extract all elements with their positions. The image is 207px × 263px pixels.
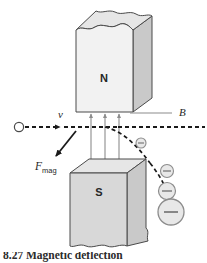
south-pole-front-face: [70, 173, 127, 247]
south-pole-block: S: [70, 159, 148, 247]
velocity-label: v: [58, 108, 63, 120]
force-label-subscript: mag: [42, 166, 57, 175]
south-pole-side-face: [127, 159, 148, 246]
magnetic-force-vector: [56, 131, 76, 156]
field-label-B: B: [179, 106, 186, 118]
north-pole-side-face: [133, 16, 152, 112]
incoming-charge: [14, 122, 23, 131]
north-pole-block: N: [76, 11, 152, 112]
magnetic-field-lines: [91, 113, 172, 160]
figure-caption-strip: 8.27 Magnetic deflection: [0, 252, 207, 263]
charge-symbol-3: [159, 183, 176, 200]
charge-symbol-4: [158, 199, 184, 225]
magnetic-deflection-figure: N B S v: [0, 0, 207, 263]
charge-symbol-2: [161, 165, 174, 178]
north-pole-label: N: [100, 72, 108, 84]
charge-symbol-1: [136, 138, 146, 148]
incoming-trajectory: [14, 122, 205, 131]
south-pole-label: S: [95, 186, 102, 198]
diagram-canvas: N B S v: [0, 0, 207, 263]
north-pole-front-face: [76, 24, 133, 112]
force-arrow: [56, 131, 76, 156]
figure-caption: 8.27 Magnetic deflection: [3, 252, 123, 261]
